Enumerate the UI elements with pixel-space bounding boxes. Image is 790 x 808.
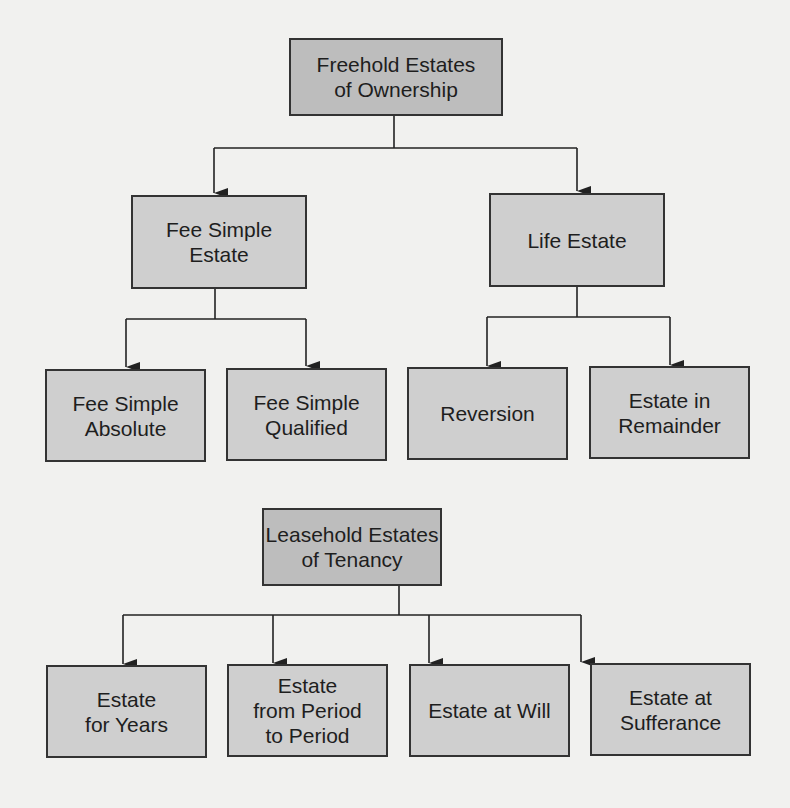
- node-reversion: Reversion: [407, 367, 568, 460]
- node-fee-simple-estate: Fee Simple Estate: [131, 195, 307, 289]
- node-fee-simple-qualified: Fee Simple Qualified: [226, 368, 387, 461]
- node-freehold-estates: Freehold Estates of Ownership: [289, 38, 503, 116]
- node-estate-in-remainder: Estate in Remainder: [589, 366, 750, 459]
- node-leasehold-estates: Leasehold Estates of Tenancy: [262, 508, 442, 586]
- node-estate-at-will: Estate at Will: [409, 664, 570, 757]
- node-life-estate: Life Estate: [489, 193, 665, 287]
- node-estate-at-sufferance: Estate at Sufferance: [590, 663, 751, 756]
- node-estate-for-years: Estate for Years: [46, 665, 207, 758]
- node-estate-period-to-period: Estate from Period to Period: [227, 664, 388, 757]
- node-fee-simple-absolute: Fee Simple Absolute: [45, 369, 206, 462]
